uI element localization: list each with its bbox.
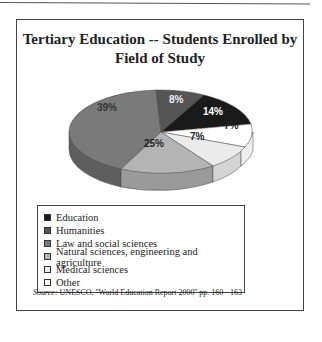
swatch-icon — [44, 253, 51, 260]
legend-label: Other — [56, 277, 80, 288]
swatch-icon — [44, 266, 51, 273]
legend-item-natural-sciences: Natural sciences, engineering and agricu… — [44, 250, 244, 263]
source-text: UNESCO, ''World Education Report 2000'' … — [58, 288, 242, 297]
label-education: 14% — [203, 106, 223, 117]
label-medical: 7% — [190, 131, 204, 142]
label-law: 39% — [97, 102, 117, 113]
label-natural-sciences: 25% — [144, 138, 164, 149]
label-other: 7% — [224, 120, 238, 131]
legend-item-education: Education — [44, 211, 244, 224]
chart-title-line-2: Field of Study — [17, 49, 303, 68]
chart-title-line-1: Tertiary Education -- Students Enrolled … — [17, 30, 303, 49]
legend-label: Medical sciences — [56, 264, 128, 275]
swatch-icon — [44, 227, 51, 234]
swatch-icon — [44, 214, 51, 221]
chart-legend: Education Humanities Law and social scie… — [37, 205, 245, 293]
label-humanities: 8% — [169, 94, 183, 105]
swatch-icon — [44, 279, 51, 286]
source-note: Source: UNESCO, ''World Education Report… — [33, 288, 242, 297]
chart-title: Tertiary Education -- Students Enrolled … — [17, 30, 303, 68]
legend-label: Education — [56, 212, 99, 223]
swatch-icon — [44, 240, 51, 247]
chart-frame: Tertiary Education -- Students Enrolled … — [16, 19, 304, 311]
top-rule — [0, 2, 310, 5]
pie-chart: 39% 8% 14% 7% 7% 25% — [61, 80, 261, 200]
legend-item-humanities: Humanities — [44, 224, 244, 237]
source-prefix: Source: — [33, 288, 58, 297]
legend-label: Humanities — [56, 225, 104, 236]
